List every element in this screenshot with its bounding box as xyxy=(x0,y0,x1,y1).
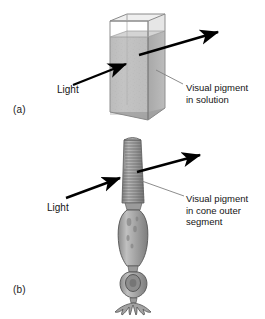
panel-b-label: (b) xyxy=(13,284,26,295)
light-arrow-in-b xyxy=(66,178,120,198)
leader-line-b xyxy=(139,180,184,196)
light-arrow-out-b xyxy=(137,155,200,172)
panel-a-label: (a) xyxy=(13,104,26,115)
pigment-label-a: Visual pigment in solution xyxy=(186,82,248,105)
figure-artwork xyxy=(0,0,265,319)
light-label-a: Light xyxy=(57,84,79,96)
pigment-label-b: Visual pigment in cone outer segment xyxy=(186,193,248,228)
cone-cell-illustration xyxy=(115,138,151,316)
figure-container: (a) Light Visual pigment in solution (b)… xyxy=(0,0,265,319)
light-label-b: Light xyxy=(47,202,69,214)
